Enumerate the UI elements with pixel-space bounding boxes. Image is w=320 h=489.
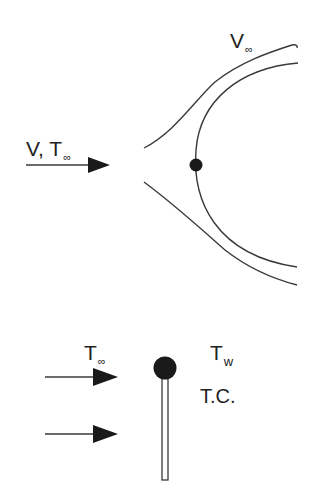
- flow-arrow-lower: [45, 425, 118, 443]
- thermocouple-stem: [162, 378, 168, 480]
- freestream-label: V, T∞: [26, 138, 71, 163]
- outer-velocity-label-main: V: [230, 29, 244, 52]
- stagnation-point-dot: [190, 159, 203, 172]
- thermocouple-label: T.C.: [200, 386, 236, 406]
- flow-arrow-upper: [45, 368, 118, 386]
- wall-temperature-label-main: T: [210, 341, 223, 364]
- thermocouple-bead: [154, 357, 177, 380]
- ambient-temperature-label: T∞: [84, 342, 106, 367]
- outer-velocity-label: V∞: [230, 30, 253, 55]
- freestream-label-sub: ∞: [63, 151, 71, 163]
- wall-temperature-label: Tw: [210, 342, 233, 368]
- diagram-canvas: [0, 0, 320, 489]
- freestream-label-main: V, T: [26, 137, 62, 160]
- outer-streamline-upper: [144, 45, 297, 148]
- ambient-temperature-label-sub: ∞: [98, 355, 106, 367]
- outer-streamline-lower: [144, 182, 297, 285]
- ambient-temperature-label-main: T: [84, 341, 97, 364]
- inner-curve: [196, 63, 298, 267]
- outer-velocity-label-sub: ∞: [245, 43, 253, 55]
- wall-temperature-label-sub: w: [224, 354, 233, 369]
